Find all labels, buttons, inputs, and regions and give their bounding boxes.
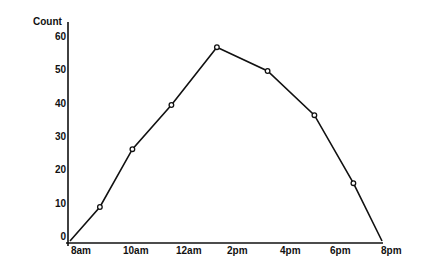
- y-axis-title: Count: [33, 16, 62, 27]
- data-point-marker: [215, 45, 220, 50]
- x-tick-label: 10am: [123, 245, 149, 256]
- data-point-marker: [265, 69, 270, 74]
- x-tick-label: 2pm: [227, 245, 248, 256]
- y-tick-label: 10: [50, 198, 66, 209]
- data-point-marker: [312, 113, 317, 118]
- y-tick-label: 30: [50, 131, 66, 142]
- y-tick-label: 20: [50, 164, 66, 175]
- data-point-marker: [98, 205, 103, 210]
- data-point-marker: [169, 103, 174, 108]
- x-tick-label: 4pm: [280, 245, 301, 256]
- y-tick-label: 40: [50, 98, 66, 109]
- x-tick-label: 8pm: [381, 245, 402, 256]
- x-tick-label: 12am: [176, 245, 202, 256]
- data-point-marker: [351, 181, 356, 186]
- count-series-line: [70, 47, 382, 241]
- x-tick-label: 8am: [71, 245, 91, 256]
- x-tick-label: 6pm: [330, 245, 351, 256]
- data-point-marker: [130, 147, 135, 152]
- y-tick-label: 50: [50, 64, 66, 75]
- data-point-markers: [98, 45, 356, 209]
- y-tick-label: 0: [50, 231, 66, 242]
- y-tick-label: 60: [50, 31, 66, 42]
